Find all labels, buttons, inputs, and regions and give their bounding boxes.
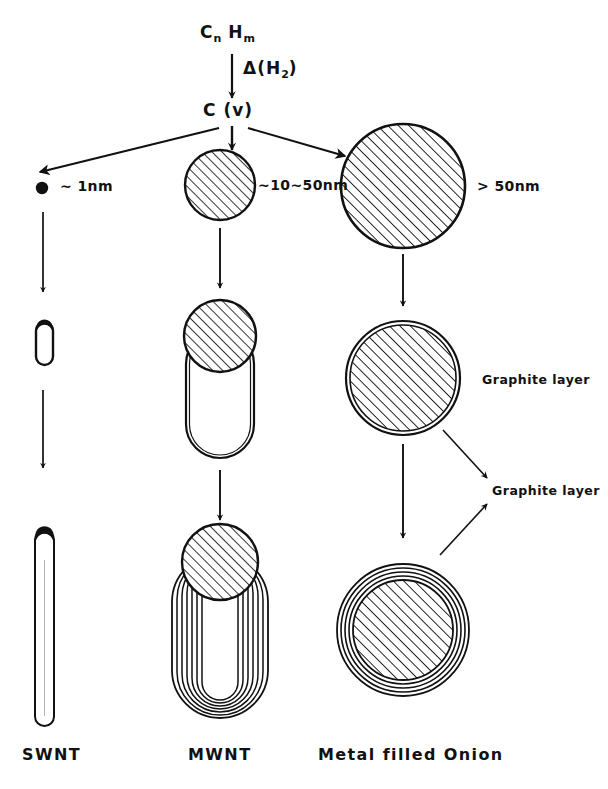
branch-arrow-right (248, 128, 345, 156)
onion-single-shell (346, 321, 460, 435)
precursor-carbon: C (200, 22, 213, 42)
diagram-svg (0, 0, 608, 789)
swnt-seed-particle (36, 182, 48, 194)
condition-open: (H (257, 58, 281, 78)
column-label-onion: Metal filled Onion (318, 745, 504, 764)
condition-sub: 2 (281, 68, 289, 81)
delta-icon: Δ (243, 58, 257, 78)
diagram-canvas: Cn Hm Δ(H2) C (v) ~ 1nm ~10~50nm > 50nm … (0, 0, 608, 789)
mwnt-multi-wall-capsule (172, 524, 268, 718)
onion-size-label: > 50nm (477, 178, 540, 194)
precursor-hydrogen: H (228, 22, 243, 42)
carbon-vapor-label: C (v) (203, 100, 253, 120)
column-label-swnt: SWNT (22, 745, 81, 764)
precursor-m: m (243, 32, 254, 45)
mwnt-catalyst-particle (185, 150, 255, 220)
swnt-short-capsule (36, 320, 53, 365)
column-label-mwnt: MWNT (188, 745, 251, 764)
graphite-layer-leader-lower (440, 504, 487, 555)
precursor-n: n (213, 32, 221, 45)
mwnt-size-label: ~10~50nm (258, 177, 348, 193)
pyrolysis-condition-label: Δ(H2) (243, 58, 298, 81)
graphite-layer-label-lower: Graphite layer (492, 483, 600, 498)
onion-metal-particle (341, 124, 465, 248)
condition-close: ) (289, 58, 298, 78)
onion-multi-shell (337, 564, 469, 696)
swnt-long-nanotube (35, 526, 54, 726)
precursor-formula: Cn Hm (200, 22, 255, 45)
graphite-layer-leader-upper (443, 430, 487, 478)
mwnt-single-wall-capsule (184, 300, 256, 458)
swnt-size-label: ~ 1nm (60, 178, 113, 194)
graphite-layer-label-upper: Graphite layer (482, 372, 590, 387)
